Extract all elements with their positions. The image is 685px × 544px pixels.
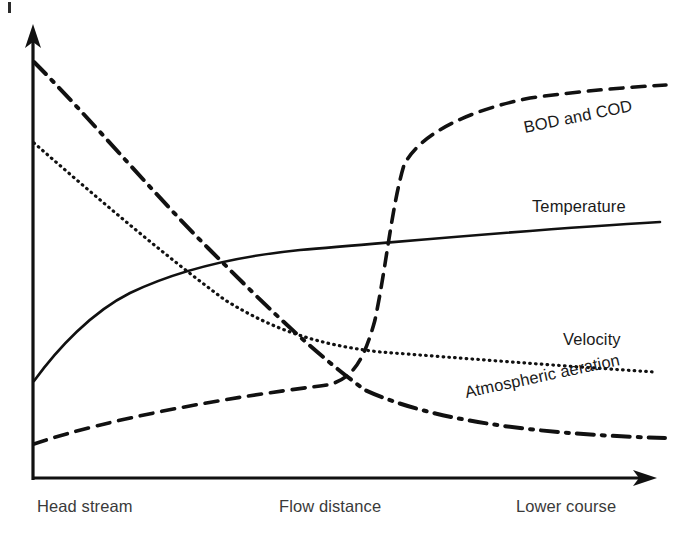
series-label-velocity: Velocity — [563, 330, 621, 349]
chart-plot-area — [0, 0, 685, 544]
x-axis-tick-flow-distance: Flow distance — [279, 497, 381, 516]
series-label-temperature: Temperature — [532, 197, 626, 216]
curve-bod-and-cod — [34, 85, 666, 444]
curve-temperature — [34, 222, 660, 381]
x-axis-tick-lower-course: Lower course — [516, 497, 616, 516]
x-axis-tick-head-stream: Head stream — [37, 497, 133, 516]
curve-velocity — [34, 143, 655, 372]
chart-figure: BOD and COD Temperature Velocity Atmosph… — [0, 0, 685, 544]
